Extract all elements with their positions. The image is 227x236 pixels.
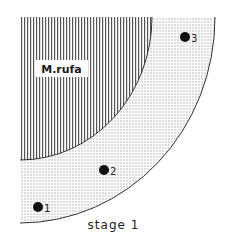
svg-text:1: 1 [44, 203, 50, 214]
svg-text:3: 3 [191, 33, 197, 44]
svg-text:2: 2 [110, 166, 116, 177]
quarter-circle-diagram: M.rufa 1 2 3 [0, 0, 227, 236]
m-rufa-label: M.rufa [41, 63, 82, 76]
diagram-caption: stage 1 [0, 218, 227, 232]
